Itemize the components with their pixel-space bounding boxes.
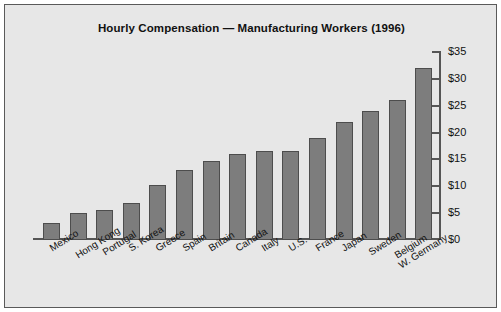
x-axis-category-label: Britain [207,230,236,254]
plot-area: Hourly Compensation — Manufacturing Work… [5,5,498,309]
x-axis-category-label: U.S. [287,235,309,254]
x-axis-category-label: France [314,229,346,254]
x-axis-labels: MexicoHong KongPortugalS. KoreaGreeceSpa… [5,5,498,309]
chart-frame: Hourly Compensation — Manufacturing Work… [4,4,497,308]
chart-figure: Hourly Compensation — Manufacturing Work… [0,0,501,312]
